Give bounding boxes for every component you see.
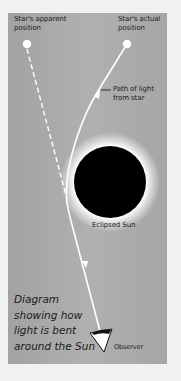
label-apparent-position: Star's apparent position — [14, 15, 66, 33]
star-apparent-dot — [23, 40, 31, 48]
label-path-of-light: Path of light from star — [113, 85, 154, 103]
star-actual-dot — [123, 40, 131, 48]
label-eclipsed-sun: Eclipsed Sun — [92, 221, 135, 230]
label-actual-position: Star's actual position — [118, 15, 160, 33]
apparent-line-dashed — [27, 49, 66, 195]
diagram-panel: Star's apparent position Star's actual p… — [8, 13, 167, 364]
label-observer: Observer — [114, 343, 143, 352]
diagram-caption: Diagram showing how light is bent around… — [14, 292, 95, 354]
eclipsed-sun — [74, 146, 146, 218]
